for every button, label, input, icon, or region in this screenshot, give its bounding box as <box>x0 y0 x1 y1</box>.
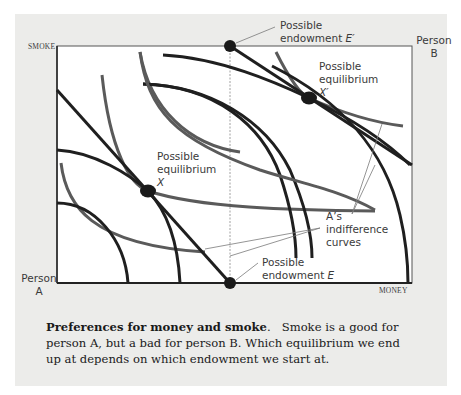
equilibrium-x-point <box>140 185 156 198</box>
e-prime-line2: endowment E′ <box>280 32 355 45</box>
e-symbol: E <box>328 269 335 281</box>
caption-title-period: . <box>267 320 271 334</box>
equilibrium-x-prime-point <box>301 92 317 105</box>
figure-caption: Preferences for money and smoke. Smoke i… <box>46 319 418 367</box>
x-prime-symbol: X′ <box>319 86 378 99</box>
money-axis-label: MONEY <box>379 286 408 295</box>
endowment-e-prime-point <box>224 40 236 52</box>
indiff-line2: indifference <box>326 223 388 236</box>
e-prime-symbol: E′ <box>346 32 355 44</box>
endowment-e-prime-label: Possible endowment E′ <box>280 19 355 45</box>
e-prime-line1: Possible <box>280 19 355 32</box>
person-a-line2: A <box>17 285 61 298</box>
equilibrium-x-prime-label: Possible equilibrium X′ <box>319 60 378 99</box>
x-prime-line1: Possible <box>319 60 378 73</box>
person-a-label: Person A <box>17 272 61 298</box>
e-line1: Possible <box>262 256 334 269</box>
a-indifference-curves-label: A’s indifference curves <box>326 210 388 249</box>
x-symbol: X <box>157 176 216 189</box>
e-prime-prefix: endowment <box>280 32 346 44</box>
person-b-label: Person B <box>412 34 456 60</box>
e-line2: endowment E <box>262 269 334 282</box>
x-prime-line2: equilibrium <box>319 73 378 86</box>
smoke-axis-label: SMOKE <box>28 42 55 51</box>
person-b-line2: B <box>412 47 456 60</box>
equilibrium-x-label: Possible equilibrium X <box>157 150 216 189</box>
caption-title: Preferences for money and smoke <box>46 320 267 334</box>
e-prefix: endowment <box>262 269 328 281</box>
x-line2: equilibrium <box>157 163 216 176</box>
leader-e-prime <box>236 27 275 43</box>
endowment-e-label: Possible endowment E <box>262 256 334 282</box>
indiff-line1: A’s <box>326 210 388 223</box>
indiff-line3: curves <box>326 236 388 249</box>
x-line1: Possible <box>157 150 216 163</box>
endowment-e-point <box>224 277 236 289</box>
person-a-line1: Person <box>17 272 61 285</box>
person-b-line1: Person <box>412 34 456 47</box>
